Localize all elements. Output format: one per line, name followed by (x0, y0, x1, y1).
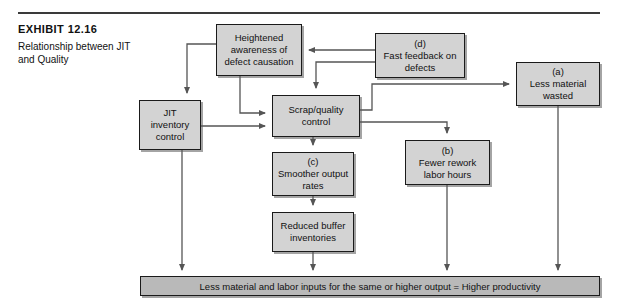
node-fast-feedback-label: Fast feedback on defects (379, 50, 461, 74)
node-smoother-output-rates[interactable]: (c) Smoother output rates (272, 152, 354, 196)
node-heightened-awareness[interactable]: Heightened awareness of defect causation (216, 24, 302, 76)
node-fewer-rework-labor-hours-tag: (b) (409, 145, 486, 157)
node-productivity-summary-bar-label: Less material and labor inputs for the s… (200, 281, 541, 292)
node-fewer-rework-labor-hours[interactable]: (b) Fewer rework labor hours (405, 140, 490, 185)
link-scrap-to-fewer-rework (360, 122, 447, 133)
link-awareness-to-jit (187, 44, 216, 93)
node-less-material-wasted-label: Less material wasted (520, 78, 596, 102)
exhibit-figure: EXHIBIT 12.16 Relationship between JIT a… (0, 0, 618, 305)
node-fast-feedback-tag: (d) (379, 38, 461, 50)
node-less-material-wasted-tag: (a) (520, 66, 596, 78)
node-jit-inventory-control-label: JIT inventory control (143, 107, 197, 143)
node-productivity-summary-bar[interactable]: Less material and labor inputs for the s… (140, 276, 600, 296)
node-scrap-quality-control-label: Scrap/quality control (276, 104, 356, 128)
node-smoother-output-rates-label: Smoother output rates (276, 168, 350, 192)
node-scrap-quality-control[interactable]: Scrap/quality control (272, 95, 360, 137)
node-heightened-awareness-label: Heightened awareness of defect causation (220, 32, 298, 68)
node-reduced-buffer-inventories-label: Reduced buffer inventories (276, 220, 350, 244)
link-feedback-to-scrap (316, 62, 375, 88)
node-fewer-rework-labor-hours-label: Fewer rework labor hours (409, 157, 486, 181)
node-less-material-wasted[interactable]: (a) Less material wasted (516, 62, 600, 106)
link-scrap-to-less-material (360, 84, 509, 110)
node-jit-inventory-control[interactable]: JIT inventory control (139, 100, 201, 150)
link-awareness-to-scrap (240, 76, 265, 113)
node-fast-feedback[interactable]: (d) Fast feedback on defects (375, 33, 465, 78)
node-smoother-output-rates-tag: (c) (276, 156, 350, 168)
node-reduced-buffer-inventories[interactable]: Reduced buffer inventories (272, 212, 354, 252)
